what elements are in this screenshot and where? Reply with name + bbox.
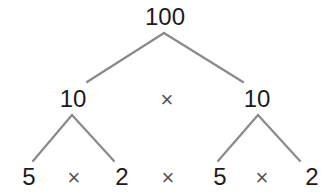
multiply-sign-c: × (256, 167, 269, 189)
edge-root-left (87, 33, 164, 82)
edge-right10-5 (218, 115, 258, 161)
edge-left10-5 (33, 115, 72, 161)
factor-tree-diagram: 100 10 × 10 5 × 2 × 5 × 2 (0, 0, 330, 194)
leaf-2-left: 2 (115, 165, 128, 189)
root-node-100: 100 (145, 5, 185, 29)
edge-right10-2 (258, 115, 300, 161)
multiply-sign-a: × (68, 167, 81, 189)
multiply-sign-level1: × (161, 89, 174, 111)
leaf-5-right: 5 (213, 165, 226, 189)
leaf-5-left: 5 (22, 165, 35, 189)
edge-root-right (164, 33, 243, 82)
node-10-left: 10 (60, 87, 87, 111)
node-10-right: 10 (244, 87, 271, 111)
leaf-2-right: 2 (305, 165, 318, 189)
multiply-sign-b: × (162, 167, 175, 189)
edge-left10-2 (72, 115, 114, 161)
